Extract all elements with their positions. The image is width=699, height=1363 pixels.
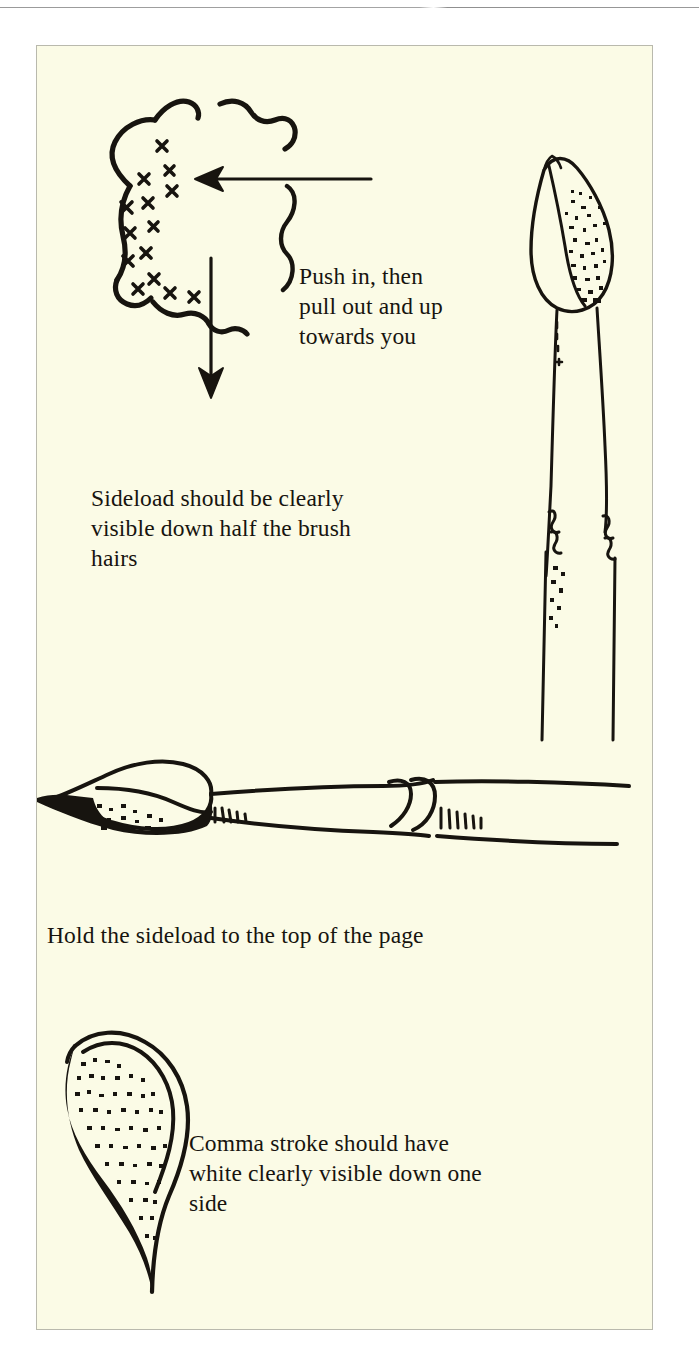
caption-push-in: Push in, then pull out and up towards yo… [299,261,549,351]
brush-vertical-loaded [531,156,615,740]
scanned-page: Push in, then pull out and up towards yo… [0,0,699,1363]
brush-horizontal-loaded [37,761,629,844]
illustration-plate: Push in, then pull out and up towards yo… [36,45,653,1330]
left-arrow-icon [195,167,371,191]
puddle-hatch-marks [121,141,199,302]
curly-brace-icon [281,186,295,290]
paint-puddle-diagram [112,101,295,334]
comma-stipple [75,1058,167,1240]
comma-stroke [65,1033,188,1292]
caption-comma-stroke: Comma stroke should have white clearly v… [189,1128,609,1218]
caption-sideload-visible: Sideload should be clearly visible down … [91,483,491,573]
down-arrow-icon [199,258,223,398]
sideload-stipple-horizontal [73,802,163,830]
sideload-stipple-vertical [565,190,606,303]
caption-hold-sideload: Hold the sideload to the top of the page [47,920,607,950]
top-divider-rule [0,7,699,8]
